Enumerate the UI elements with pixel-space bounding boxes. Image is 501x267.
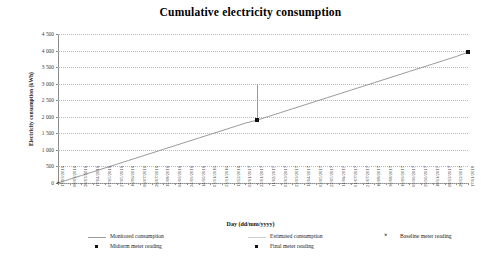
- x-tick-label: 08/12/2017: [447, 166, 452, 187]
- y-tick-label: 0: [20, 180, 54, 186]
- x-tick-label: 16/06/2016: [130, 166, 135, 187]
- x-tick-label: 15/08/2016: [165, 166, 170, 187]
- x-tick-mark: [421, 183, 422, 185]
- x-tick-label: 03/03/2017: [283, 166, 288, 187]
- x-tick-mark: [269, 183, 270, 185]
- y-tick-label: 3 000: [20, 81, 54, 87]
- x-tick-label: 17/03/2016: [60, 166, 65, 187]
- x-tick-mark: [351, 183, 352, 185]
- x-tick-label: 13/12/2016: [236, 166, 241, 187]
- x-tick-label: 23/11/2016: [224, 166, 229, 187]
- midterm-vertical-line: [257, 84, 258, 120]
- x-tick-mark: [199, 183, 200, 185]
- x-tick-label: 14/10/2016: [201, 166, 206, 187]
- y-tick-label: 4 500: [20, 31, 54, 37]
- y-tick-label: 4 000: [20, 48, 54, 54]
- x-tick-label: 06/07/2016: [142, 166, 147, 187]
- x-tick-label: 21/07/2017: [365, 166, 370, 187]
- x-tick-label: 30/08/2017: [388, 166, 393, 187]
- x-tick-mark: [234, 183, 235, 185]
- x-tick-mark: [58, 183, 59, 185]
- x-tick-mark: [304, 183, 305, 185]
- legend-label: Midterm meter reading: [110, 243, 162, 249]
- y-tick-label: 3 500: [20, 64, 54, 70]
- x-tick-mark: [93, 183, 94, 185]
- x-tick-mark: [175, 183, 176, 185]
- marker-final-meter-reading: [466, 50, 470, 54]
- x-tick-mark: [363, 183, 364, 185]
- series-monitored-consumption: [58, 34, 468, 184]
- x-tick-label: 02/05/2017: [318, 166, 323, 187]
- x-axis-title: Day (dd/mm/yyyy): [0, 221, 501, 227]
- legend-label: Final meter reading: [270, 243, 314, 249]
- x-tick-mark: [398, 183, 399, 185]
- x-tick-label: 11/02/2017: [271, 166, 276, 187]
- x-tick-label: 22/05/2017: [329, 166, 334, 187]
- y-tick-label: 2 500: [20, 97, 54, 103]
- plot-area: 05001 0001 5002 0002 5003 0003 5004 0004…: [58, 34, 468, 183]
- legend-square-icon: [255, 245, 258, 248]
- y-tick-label: 1 500: [20, 130, 54, 136]
- x-tick-label: 22/01/2017: [259, 166, 264, 187]
- legend-label: Baseline meter reading: [400, 233, 452, 239]
- legend-label: Monitored consumption: [110, 233, 164, 239]
- x-tick-label: 12/04/2017: [306, 166, 311, 187]
- x-tick-mark: [316, 183, 317, 185]
- legend-square-icon: [95, 245, 98, 248]
- chart-title: Cumulative electricity consumption: [0, 6, 501, 18]
- x-tick-mark: [433, 183, 434, 185]
- legend-line-light-icon: [248, 237, 266, 238]
- x-tick-label: 04/09/2016: [177, 166, 182, 187]
- x-tick-mark: [386, 183, 387, 185]
- x-tick-mark: [105, 183, 106, 185]
- x-tick-mark: [140, 183, 141, 185]
- marker-midterm-meter-reading: [255, 118, 259, 122]
- x-tick-mark: [187, 183, 188, 185]
- legend-label: Estimated consumption: [270, 233, 323, 239]
- x-tick-mark: [70, 183, 71, 185]
- x-tick-mark: [257, 183, 258, 185]
- x-tick-label: 19/09/2017: [400, 166, 405, 187]
- x-tick-label: 02/01/2017: [247, 166, 252, 187]
- y-axis-title-wrapper: Electricity consumption (kWh): [26, 34, 36, 183]
- x-tick-label: 10/08/2017: [376, 166, 381, 187]
- x-tick-label: 29/10/2017: [423, 166, 428, 187]
- x-tick-label: 26/07/2016: [154, 166, 159, 187]
- x-tick-label: 03/11/2016: [212, 166, 217, 187]
- y-tick-label: 500: [20, 163, 54, 169]
- x-tick-label: 28/03/2016: [83, 166, 88, 187]
- x-tick-mark: [339, 183, 340, 185]
- legend-line-icon: [88, 237, 106, 238]
- x-tick-mark: [117, 183, 118, 185]
- x-tick-mark: [281, 183, 282, 185]
- x-tick-mark: [222, 183, 223, 185]
- x-tick-label: 27/05/2016: [119, 166, 124, 187]
- x-tick-label: 11/06/2017: [341, 166, 346, 187]
- x-tick-label: 07/05/2016: [107, 166, 112, 187]
- y-tick-label: 1 000: [20, 147, 54, 153]
- chart-legend: Monitored consumptionEstimated consumpti…: [0, 232, 501, 258]
- x-tick-mark: [152, 183, 153, 185]
- x-tick-mark: [468, 183, 469, 185]
- x-tick-label: 24/09/2016: [189, 166, 194, 187]
- y-tick-label: 2 000: [20, 114, 54, 120]
- x-tick-label: 17/01/2018: [470, 166, 475, 187]
- x-tick-label: 23/03/2017: [294, 166, 299, 187]
- x-tick-label: 01/07/2017: [353, 166, 358, 187]
- x-tick-mark: [445, 183, 446, 185]
- x-tick-label: 18/11/2017: [435, 166, 440, 187]
- x-tick-label: 09/10/2017: [411, 166, 416, 187]
- x-tick-label: 28/12/2017: [458, 166, 463, 187]
- chart-container: Cumulative electricity consumption Elect…: [0, 0, 501, 267]
- x-tick-label: 17/04/2016: [95, 166, 100, 187]
- x-tick-label: 08/03/2016: [72, 166, 77, 187]
- legend-x-icon: ×: [384, 232, 387, 238]
